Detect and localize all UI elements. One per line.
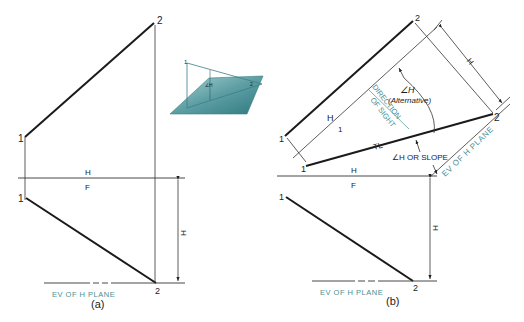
fold-line-h1 (293, 27, 437, 158)
aux-fold-label-1: 1 (338, 125, 343, 134)
front-view-line-1-2 (26, 198, 156, 283)
aux-dimension-h (442, 28, 502, 103)
caption-a: (a) (91, 298, 104, 310)
aux-projector-1 (287, 138, 306, 162)
inset-point-2: 2 (250, 81, 253, 87)
aux-dimension-ext-top (434, 20, 442, 30)
aux-dimension-ext-bottom (496, 97, 510, 110)
descriptive-geometry-figure: 2 1 H F 1 2 H EV OF H PLANE (a) 1 ∠H 2 (0, 0, 524, 322)
inset-angle-label: ∠H (205, 82, 213, 88)
point-label-front-2: 2 (413, 283, 418, 293)
slope-label: ∠H OR SLOPE (392, 153, 448, 162)
angle-alt-label: ∠H (400, 85, 415, 95)
caption-b: (b) (386, 295, 399, 307)
point-label-aux-2: 2 (494, 112, 500, 123)
fold-label-h: H (351, 166, 357, 175)
ev-label: EV OF H PLANE (52, 290, 115, 299)
aux-ev-label: EV OF H PLANE (440, 125, 495, 179)
front-view-line-1-2 (286, 197, 413, 281)
fold-label-h: H (85, 168, 91, 177)
point-label-front-2: 2 (155, 286, 160, 296)
dimension-label-h: H (431, 225, 440, 231)
ev-label: EV OF H PLANE (320, 288, 383, 297)
angle-alt-leader (399, 68, 404, 78)
point-label-top-2: 2 (415, 13, 420, 23)
fold-label-f: F (85, 183, 90, 192)
point-label-top-1: 1 (18, 133, 24, 144)
true-length-label: TL (372, 141, 384, 152)
panel-b: 2 1 1 2 H 1 H ∠H (Alternative) DIRECTION… (277, 13, 510, 307)
top-view-line-1-2 (25, 23, 154, 137)
slope-leader (416, 140, 420, 152)
point-label-aux-1: 1 (301, 164, 306, 174)
panel-a: 2 1 H F 1 2 H EV OF H PLANE (a) (18, 15, 188, 310)
point-label-top-1: 1 (279, 134, 284, 144)
aux-fold-label-h: H (327, 113, 334, 123)
fold-label-f: F (351, 181, 356, 190)
point-label-top-2: 2 (157, 15, 163, 26)
point-label-front-1: 1 (18, 193, 24, 204)
point-label-front-1: 1 (279, 192, 284, 202)
dimension-label-h: H (179, 230, 188, 236)
inset-pictorial: 1 ∠H 2 (170, 59, 263, 114)
